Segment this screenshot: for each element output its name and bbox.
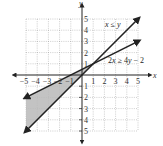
svg-text:4: 4 (84, 116, 88, 125)
svg-text:−4: −4 (31, 77, 40, 86)
svg-text:3: 3 (84, 37, 88, 46)
x-axis-label: x (152, 71, 157, 80)
y-axis-label: y (78, 0, 83, 8)
svg-text:4: 4 (125, 77, 129, 86)
svg-text:3: 3 (114, 77, 118, 86)
svg-text:1: 1 (91, 77, 95, 86)
coordinate-plane: x y −5 −4 −3 −2 −1 1 2 3 4 5 5 4 3 2 1 1… (0, 0, 163, 146)
svg-text:5: 5 (84, 15, 88, 24)
label-x-le-y: x ≤ y (104, 20, 121, 29)
svg-text:2: 2 (102, 77, 106, 86)
svg-text:2: 2 (84, 93, 88, 102)
svg-text:−2: −2 (54, 77, 63, 86)
svg-text:4: 4 (84, 26, 88, 35)
svg-text:2: 2 (84, 49, 88, 58)
svg-text:1: 1 (84, 60, 88, 69)
svg-text:−5: −5 (20, 77, 29, 86)
svg-text:5: 5 (84, 127, 88, 136)
svg-text:3: 3 (84, 105, 88, 114)
svg-text:5: 5 (136, 77, 140, 86)
inequality-graph: x y −5 −4 −3 −2 −1 1 2 3 4 5 5 4 3 2 1 1… (0, 0, 163, 146)
label-2x-ge-4y-minus-2: 2x ≥ 4y − 2 (108, 56, 144, 65)
svg-text:−1: −1 (65, 77, 74, 86)
x-tick-labels: −5 −4 −3 −2 −1 1 2 3 4 5 (20, 77, 140, 86)
svg-text:−3: −3 (43, 77, 52, 86)
svg-text:1: 1 (84, 82, 88, 91)
